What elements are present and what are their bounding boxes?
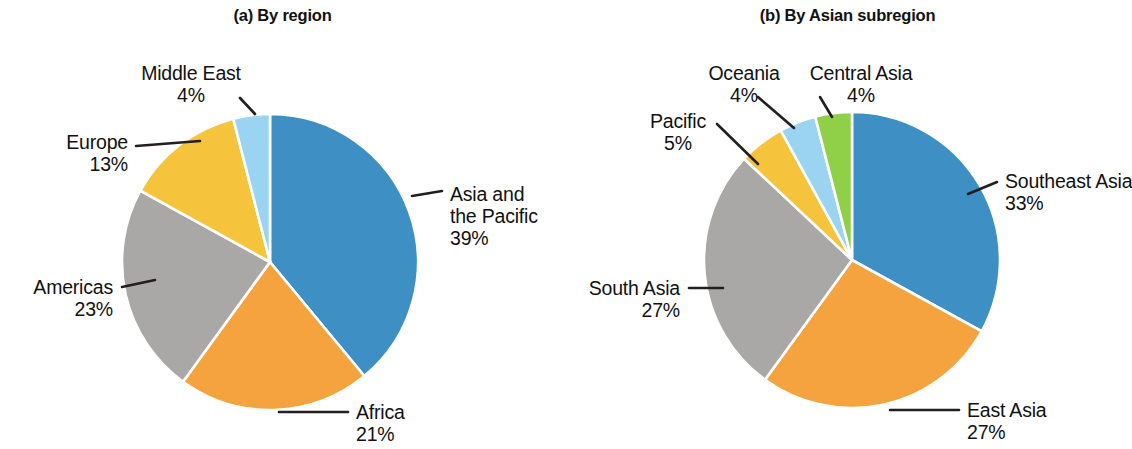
label-africa-name: Africa	[356, 401, 405, 423]
label-pacific: Pacific 5%	[638, 110, 718, 154]
label-africa-pct: 21%	[356, 423, 405, 445]
leader-line-pacific	[717, 124, 758, 164]
label-south-asia-name: South Asia	[589, 277, 680, 299]
label-europe-name: Europe	[66, 131, 128, 153]
label-oceania-name: Oceania	[708, 62, 779, 84]
leader-line-asia-and-the-pacific	[412, 191, 442, 196]
label-pacific-pct: 5%	[638, 132, 718, 154]
label-east-asia-name: East Asia	[967, 399, 1047, 421]
panel-by-region: (a) By region Asia and the Pacific 39% A…	[0, 0, 565, 449]
label-oceania: Oceania 4%	[698, 62, 790, 106]
label-middle-east: Middle East 4%	[136, 62, 246, 106]
label-americas: Americas 23%	[33, 276, 113, 320]
label-southeast-asia-pct: 33%	[1005, 192, 1132, 214]
panel-by-asian-subregion: (b) By Asian subregion Southeast Asia 33…	[565, 0, 1130, 449]
label-africa: Africa 21%	[356, 401, 405, 445]
label-americas-pct: 23%	[33, 298, 113, 320]
label-asia-and-the-pacific-line2: the Pacific	[450, 205, 538, 227]
label-middle-east-name: Middle East	[141, 62, 241, 84]
label-south-asia: South Asia 27%	[589, 277, 680, 321]
label-south-asia-pct: 27%	[589, 299, 680, 321]
label-central-asia-pct: 4%	[799, 84, 923, 106]
label-europe: Europe 13%	[66, 131, 128, 175]
label-europe-pct: 13%	[66, 153, 128, 175]
label-asia-and-the-pacific-line1: Asia and	[450, 183, 524, 205]
label-middle-east-pct: 4%	[136, 84, 246, 106]
label-southeast-asia-name: Southeast Asia	[1005, 170, 1132, 192]
label-southeast-asia: Southeast Asia 33%	[1005, 170, 1132, 214]
label-americas-name: Americas	[33, 276, 113, 298]
label-oceania-pct: 4%	[698, 84, 790, 106]
label-central-asia: Central Asia 4%	[799, 62, 923, 106]
label-central-asia-name: Central Asia	[810, 62, 913, 84]
label-east-asia: East Asia 27%	[967, 399, 1047, 443]
pie-a-slices	[122, 114, 418, 410]
label-asia-and-the-pacific-pct: 39%	[450, 227, 538, 249]
label-pacific-name: Pacific	[650, 110, 706, 132]
label-east-asia-pct: 27%	[967, 421, 1047, 443]
label-asia-and-the-pacific: Asia and the Pacific 39%	[450, 183, 538, 249]
